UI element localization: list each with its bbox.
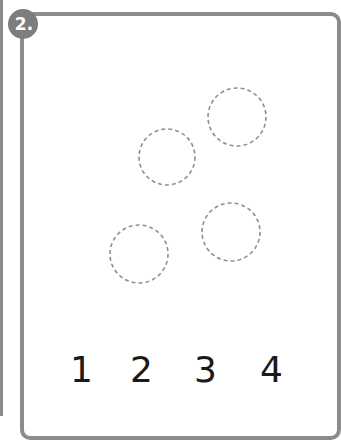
answer-option-4[interactable]: 4: [260, 350, 283, 390]
answer-option-2[interactable]: 2: [130, 350, 153, 390]
dashed-circle: [110, 225, 168, 283]
dashed-circle: [202, 203, 260, 261]
answer-option-3[interactable]: 3: [194, 350, 217, 390]
dashed-circle: [208, 88, 266, 146]
answer-option-1[interactable]: 1: [70, 350, 93, 390]
dashed-circle: [139, 129, 195, 185]
